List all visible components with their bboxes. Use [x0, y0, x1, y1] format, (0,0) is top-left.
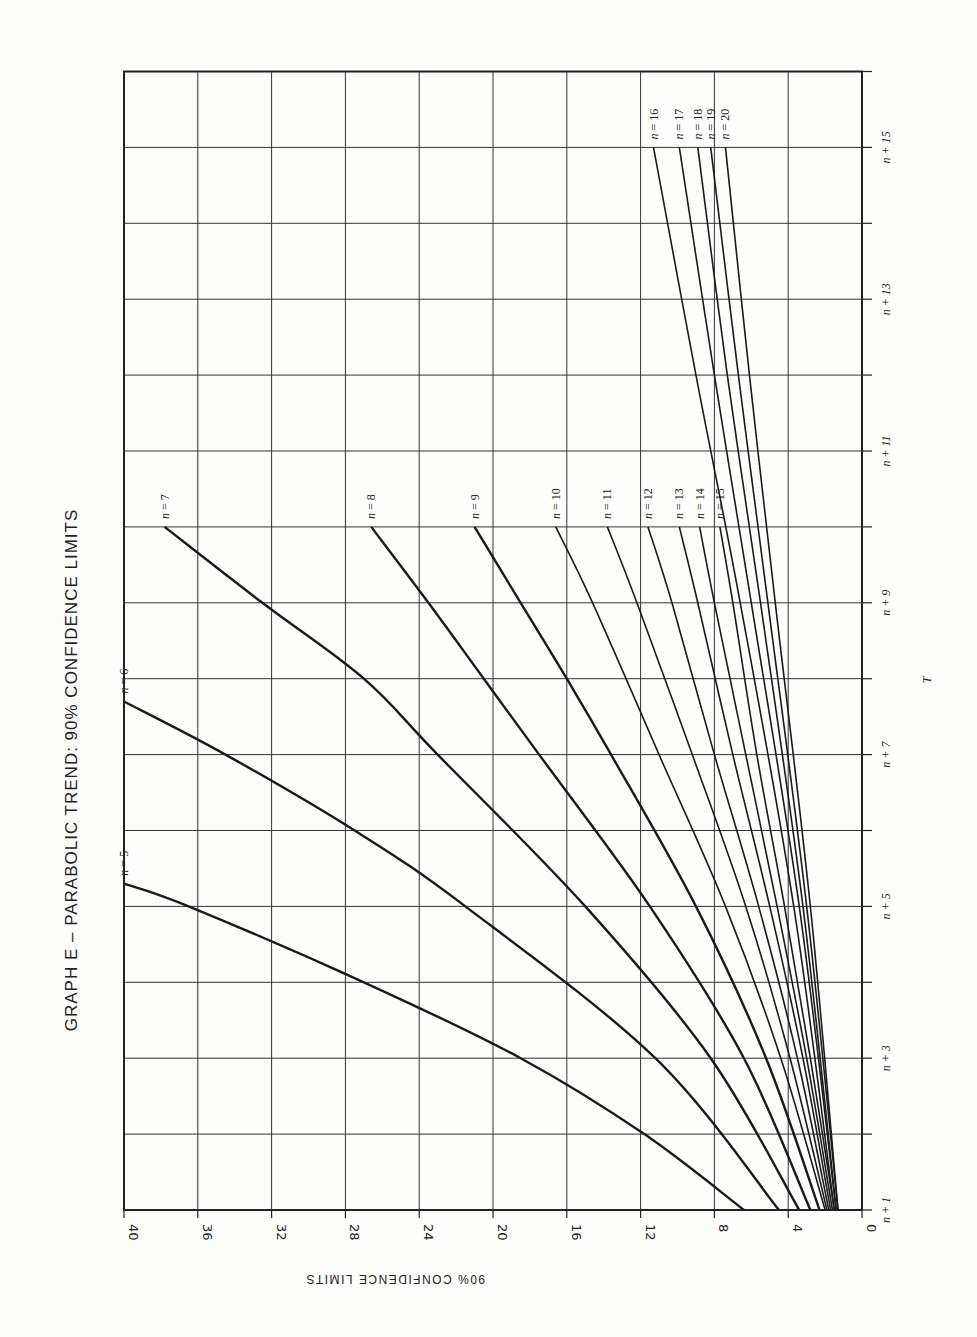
y-tick-label: 20	[495, 1224, 510, 1241]
series-label: n = 14	[693, 488, 707, 519]
series-label: n = 13	[672, 488, 686, 519]
series-label: n = 7	[158, 494, 172, 519]
x-tick-label: n + 1	[879, 1197, 893, 1223]
y-tick-label: 16	[569, 1224, 584, 1241]
grid	[124, 72, 862, 1211]
x-tick-label: n + 7	[879, 741, 893, 768]
x-tick-label: n + 5	[879, 893, 893, 919]
series-label: n = 18	[691, 109, 705, 140]
series-label: n = 10	[549, 488, 563, 519]
series-line	[124, 884, 744, 1210]
x-tick-label: n + 13	[879, 283, 893, 315]
series-label: n = 9	[468, 494, 482, 519]
x-tick-label: n + 15	[879, 131, 893, 163]
x-tick-label: n + 11	[879, 435, 893, 466]
y-tick-label: 28	[347, 1224, 362, 1241]
chart-title: GRAPH E – PARABOLIC TREND: 90% CONFIDENC…	[62, 509, 81, 1032]
x-tick-label: n + 3	[879, 1045, 893, 1071]
series-label: n = 17	[672, 109, 686, 140]
x-axis-label: T	[920, 675, 934, 683]
y-tick-label: 40	[126, 1224, 141, 1241]
series-label: n = 12	[641, 488, 655, 519]
chart-figure: GRAPH E – PARABOLIC TREND: 90% CONFIDENC…	[0, 0, 977, 1337]
y-tick-label: 4	[790, 1224, 805, 1232]
y-tick-label: 36	[200, 1224, 215, 1241]
series-label: n = 15	[713, 488, 727, 519]
series-label: n = 19	[704, 109, 718, 140]
series-label: n = 11	[600, 489, 614, 519]
y-axis-label: 90% CONFIDENCE LIMITS	[305, 1272, 485, 1286]
series-label: n = 5	[117, 851, 131, 876]
series-label: n = 20	[718, 109, 732, 140]
y-tick-label: 0	[864, 1224, 879, 1232]
series-line	[720, 527, 834, 1210]
y-tick-label: 32	[274, 1224, 289, 1241]
y-tick-label: 12	[643, 1224, 658, 1241]
axis-ticks: 0481216202428323640n + 1n + 3n + 5n + 7n…	[124, 72, 893, 1241]
series-label: n = 6	[117, 669, 131, 694]
series-label: n = 16	[647, 109, 661, 140]
y-tick-label: 8	[716, 1224, 731, 1232]
x-tick-label: n + 9	[879, 590, 893, 616]
series-label: n = 8	[364, 494, 378, 519]
y-tick-label: 24	[421, 1224, 436, 1241]
